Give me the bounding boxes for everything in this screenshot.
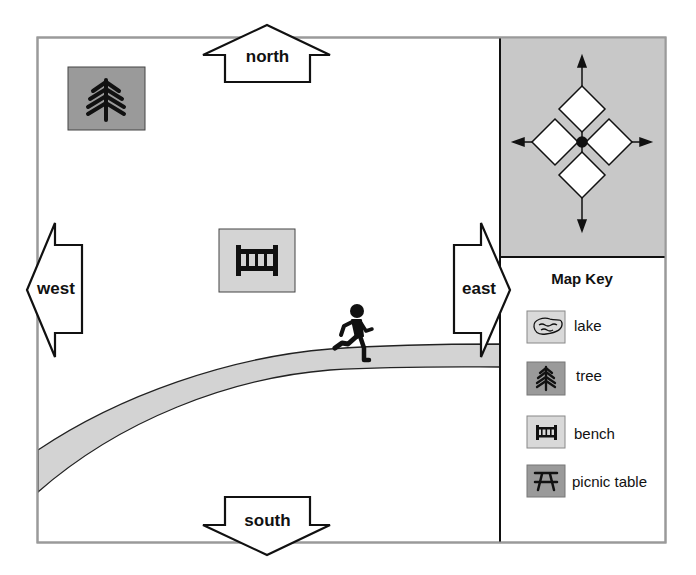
key-label-lake: lake (574, 317, 602, 334)
map-bench (219, 229, 295, 292)
east-label: east (454, 279, 504, 299)
north-label: north (225, 47, 310, 67)
key-lake-swatch (527, 311, 565, 343)
key-tree-swatch (527, 362, 565, 395)
map-tree (68, 67, 145, 130)
west-label: west (30, 279, 82, 299)
south-label: south (225, 511, 310, 531)
key-label-bench: bench (574, 425, 615, 442)
key-label-tree: tree (576, 367, 602, 384)
key-bench-swatch (527, 416, 565, 448)
map-key-title: Map Key (530, 270, 634, 287)
key-label-picnic-table: picnic table (572, 473, 647, 490)
key-picnic-swatch (527, 465, 565, 497)
